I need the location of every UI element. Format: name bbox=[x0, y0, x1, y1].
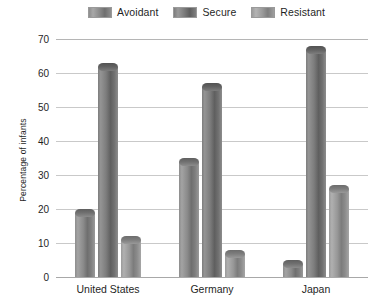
x-tick-label-united-states: United States bbox=[76, 283, 139, 295]
y-tick-label-30: 30 bbox=[38, 170, 49, 181]
y-tick-label-40: 40 bbox=[38, 136, 49, 147]
y-tick-label-0: 0 bbox=[43, 272, 49, 283]
bar-body bbox=[306, 50, 326, 277]
y-tick-label-70: 70 bbox=[38, 34, 49, 45]
bar-body bbox=[329, 189, 349, 277]
legend-item-secure: Secure bbox=[173, 6, 236, 18]
y-axis-title: Percentage of infants bbox=[18, 85, 28, 235]
x-tick-label-germany: Germany bbox=[190, 283, 233, 295]
y-tick-label-10: 10 bbox=[38, 238, 49, 249]
bar-japan-secure bbox=[306, 46, 326, 277]
legend-swatch-avoidant bbox=[88, 7, 112, 18]
x-tick-label-japan: Japan bbox=[302, 283, 331, 295]
bar-top-ellipse bbox=[225, 250, 245, 258]
bar-top-ellipse bbox=[329, 185, 349, 193]
y-tick-label-20: 20 bbox=[38, 204, 49, 215]
bar-body bbox=[202, 87, 222, 277]
bar-japan-resistant bbox=[329, 185, 349, 277]
legend-item-resistant: Resistant bbox=[251, 6, 325, 18]
legend-item-avoidant: Avoidant bbox=[88, 6, 158, 18]
legend-swatch-resistant bbox=[251, 7, 275, 18]
bar-body bbox=[98, 67, 118, 277]
bar-united-states-avoidant bbox=[75, 209, 95, 277]
bar-japan-avoidant bbox=[283, 260, 303, 277]
bar-germany-resistant bbox=[225, 250, 245, 277]
legend-label-avoidant: Avoidant bbox=[117, 6, 158, 18]
bar-top-ellipse bbox=[121, 236, 141, 244]
bar-body bbox=[179, 162, 199, 277]
bar-body bbox=[75, 213, 95, 277]
legend-swatch-secure bbox=[173, 7, 197, 18]
x-axis-labels: United StatesGermanyJapan bbox=[56, 283, 368, 303]
bar-germany-secure bbox=[202, 83, 222, 277]
bar-united-states-resistant bbox=[121, 236, 141, 277]
gridline-70 bbox=[56, 39, 368, 40]
bar-germany-avoidant bbox=[179, 158, 199, 277]
bar-united-states-secure bbox=[98, 63, 118, 277]
plot-area: 010203040506070 bbox=[56, 39, 368, 277]
bar-top-ellipse bbox=[202, 83, 222, 91]
bar-chart: Avoidant Secure Resistant Percentage of … bbox=[0, 0, 374, 308]
bar-top-ellipse bbox=[98, 63, 118, 71]
gridline-0 bbox=[56, 277, 368, 278]
bar-top-ellipse bbox=[75, 209, 95, 217]
bar-top-ellipse bbox=[283, 260, 303, 268]
bar-body bbox=[121, 240, 141, 277]
chart-legend: Avoidant Secure Resistant bbox=[88, 6, 325, 18]
y-tick-label-50: 50 bbox=[38, 102, 49, 113]
legend-label-secure: Secure bbox=[202, 6, 236, 18]
bar-top-ellipse bbox=[179, 158, 199, 166]
legend-label-resistant: Resistant bbox=[280, 6, 325, 18]
bar-top-ellipse bbox=[306, 46, 326, 54]
y-tick-label-60: 60 bbox=[38, 68, 49, 79]
